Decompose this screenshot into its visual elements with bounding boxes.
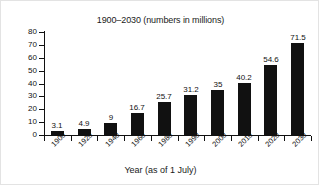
y-axis-tick-label: 10: [15, 118, 37, 126]
bar-value-label: 40.2: [230, 73, 258, 82]
y-axis-tick: [39, 58, 45, 59]
bar-value-label: 3.1: [43, 121, 71, 130]
bar-value-label: 25.7: [150, 92, 178, 101]
y-axis-tick: [39, 45, 45, 46]
x-axis-tick: [284, 136, 285, 141]
y-axis-tick-label-text: 60: [17, 54, 37, 62]
y-axis-tick-label: 70: [15, 41, 37, 49]
x-axis-tick: [124, 136, 125, 141]
y-axis-tick-label: 60: [15, 54, 37, 62]
bar-value-label: 9: [97, 113, 125, 122]
y-axis-tick: [39, 84, 45, 85]
bar-value-label: 54.6: [257, 55, 285, 64]
y-axis-tick-label-text: 50: [17, 67, 37, 75]
bar: [211, 90, 224, 135]
bar: [184, 95, 197, 135]
x-axis-tick: [258, 136, 259, 141]
bar-value-label: 71.5: [284, 33, 312, 42]
y-axis-tick-label: 20: [15, 105, 37, 113]
x-axis-tick: [151, 136, 152, 141]
x-axis-title: Year (as of 1 July): [1, 165, 319, 175]
bar: [238, 83, 251, 135]
y-axis-tick-label: 30: [15, 92, 37, 100]
y-axis-tick-label: 0: [15, 131, 37, 139]
y-axis-tick-label: 40: [15, 80, 37, 88]
y-axis-tick: [39, 109, 45, 110]
x-axis-tick: [231, 136, 232, 141]
y-axis-tick: [39, 32, 45, 33]
x-axis-tick: [178, 136, 179, 141]
y-axis-tick: [39, 96, 45, 97]
bar-value-label: 4.9: [70, 119, 98, 128]
bar: [158, 102, 171, 135]
y-axis-tick-label: 80: [15, 28, 37, 36]
x-axis-tick: [97, 136, 98, 141]
bar-value-label: 31.2: [177, 85, 205, 94]
y-axis-tick-label-text: 20: [17, 105, 37, 113]
chart-title: 1900–2030 (numbers in millions): [1, 15, 319, 25]
bar-value-label: 35: [204, 80, 232, 89]
bar: [264, 65, 277, 135]
x-axis-tick: [311, 136, 312, 141]
y-axis-tick: [39, 71, 45, 72]
y-axis-tick-label-text: 30: [17, 92, 37, 100]
y-axis-tick-label-text: 80: [17, 28, 37, 36]
bar: [291, 43, 304, 135]
x-axis-tick: [44, 136, 45, 141]
chart-figure: 1900–2030 (numbers in millions) 01020304…: [0, 0, 319, 185]
x-axis-tick: [71, 136, 72, 141]
y-axis-tick-label-text: 10: [17, 118, 37, 126]
y-axis-tick-label-text: 0: [17, 131, 37, 139]
bar-value-label: 16.7: [123, 103, 151, 112]
y-axis-tick-label: 50: [15, 67, 37, 75]
y-axis-tick-label-text: 40: [17, 80, 37, 88]
x-axis-tick: [204, 136, 205, 141]
y-axis-tick-label-text: 70: [17, 41, 37, 49]
